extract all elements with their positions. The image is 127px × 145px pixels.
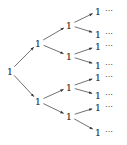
tree-node-ba: 1 xyxy=(66,82,72,93)
ellipsis-continuation: ⋯ xyxy=(105,102,113,111)
edge-arrow xyxy=(14,47,34,67)
ellipsis-continuation: ⋯ xyxy=(105,41,113,50)
edge-arrow xyxy=(44,45,64,53)
edges xyxy=(14,14,93,129)
ellipsis-continuation: ⋯ xyxy=(105,60,113,69)
ellipsis-continuation: ⋯ xyxy=(105,72,113,81)
binary-tree-diagram: 11111111⋯1⋯1⋯1⋯1⋯1⋯1⋯1⋯ xyxy=(0,0,127,145)
edge-arrow xyxy=(75,109,93,114)
tree-node-bbb: 1 xyxy=(95,127,101,138)
tree-node-b: 1 xyxy=(35,96,41,107)
tree-node-ab: 1 xyxy=(66,51,72,62)
tree-node-abb: 1 xyxy=(95,60,101,71)
nodes: 11111111⋯1⋯1⋯1⋯1⋯1⋯1⋯1⋯ xyxy=(7,6,113,138)
ellipsis-continuation: ⋯ xyxy=(105,6,113,15)
ellipsis-continuation: ⋯ xyxy=(105,29,113,38)
tree-node-bb: 1 xyxy=(66,111,72,122)
edge-arrow xyxy=(75,89,92,94)
tree-node-a: 1 xyxy=(35,38,41,49)
ellipsis-continuation: ⋯ xyxy=(105,90,113,99)
edge-arrow xyxy=(14,75,34,96)
edge-arrow xyxy=(75,58,93,63)
edge-arrow xyxy=(43,104,63,114)
tree-node-aba: 1 xyxy=(95,41,101,52)
tree-node-root: 1 xyxy=(7,66,13,77)
edge-arrow xyxy=(75,79,93,85)
edge-arrow xyxy=(75,48,93,54)
tree-node-aa: 1 xyxy=(66,20,72,31)
tree-node-bab: 1 xyxy=(95,90,101,101)
tree-node-aab: 1 xyxy=(95,29,101,40)
tree-node-bba: 1 xyxy=(95,102,101,113)
edge-arrow xyxy=(74,119,92,129)
edge-arrow xyxy=(74,14,92,23)
ellipsis-continuation: ⋯ xyxy=(105,127,113,136)
edge-arrow xyxy=(43,89,63,98)
edge-arrow xyxy=(43,28,64,40)
tree-node-baa: 1 xyxy=(95,72,101,83)
edge-arrow xyxy=(75,27,93,32)
tree-node-aaa: 1 xyxy=(95,6,101,17)
